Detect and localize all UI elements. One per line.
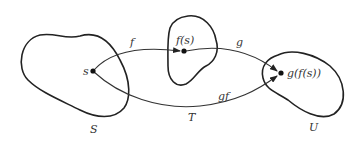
point-f-of-s: [181, 48, 186, 53]
function-composition-diagram: s f(s) g(f(s)) f g gf S T U: [0, 0, 363, 141]
label-set-U: U: [309, 121, 319, 134]
label-set-S: S: [90, 123, 98, 136]
label-point-g-of-f-of-s: g(f(s)): [287, 67, 321, 80]
label-map-g: g: [236, 36, 243, 49]
point-g-of-f-of-s: [278, 70, 283, 75]
set-U-blob: [262, 52, 343, 117]
label-set-T: T: [188, 111, 197, 124]
arrow-gf: [94, 72, 277, 107]
label-map-f: f: [129, 36, 136, 49]
point-s: [90, 68, 95, 73]
label-map-gf: gf: [218, 90, 231, 103]
set-S-blob: [21, 34, 129, 116]
label-point-f-of-s: f(s): [175, 34, 194, 47]
label-point-s: s: [83, 65, 89, 78]
